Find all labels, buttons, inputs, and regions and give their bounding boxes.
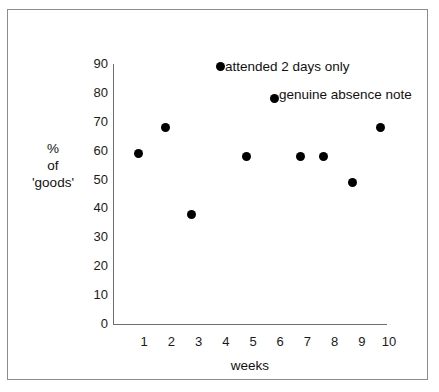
data-point (296, 152, 305, 161)
annotation-label: attended 2 days only (225, 60, 350, 74)
x-axis-line (113, 324, 387, 325)
x-tick-label: 7 (296, 335, 318, 348)
data-point (348, 178, 357, 187)
x-tick-label: 3 (188, 335, 210, 348)
x-tick-label: 9 (351, 335, 373, 348)
x-tick-label: 2 (160, 335, 182, 348)
y-tick-label: 60 (82, 144, 108, 157)
y-axis-label-line-3: 'goods' (20, 174, 86, 191)
y-tick-label: 80 (82, 86, 108, 99)
y-axis-label-line-2: of (20, 157, 86, 174)
y-tick-label: 70 (82, 115, 108, 128)
x-tick-label: 8 (324, 335, 346, 348)
y-tick-label: 50 (82, 173, 108, 186)
x-tick-label: 5 (242, 335, 264, 348)
data-point (242, 152, 251, 161)
x-axis-label: weeks (190, 358, 310, 373)
annotation-label: genuine absence note (279, 88, 412, 102)
x-tick-label: 10 (378, 335, 400, 348)
data-point (187, 210, 196, 219)
y-tick-label: 40 (82, 201, 108, 214)
x-tick-label: 1 (133, 335, 155, 348)
y-tick-label: 20 (82, 259, 108, 272)
y-axis-line (113, 64, 114, 325)
y-tick-label: 30 (82, 230, 108, 243)
y-tick-label: 90 (82, 57, 108, 70)
x-tick-label: 4 (215, 335, 237, 348)
y-axis-label: % of 'goods' (20, 140, 86, 191)
x-tick-label: 6 (269, 335, 291, 348)
y-axis-label-line-1: % (20, 140, 86, 157)
y-tick-label: 10 (82, 288, 108, 301)
y-tick-label: 0 (82, 317, 108, 330)
